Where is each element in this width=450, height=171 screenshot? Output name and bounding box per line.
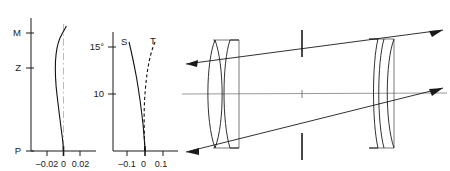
plot2-ylabel-10: 10 [93,88,104,99]
astigmatism-plot: 15° 10 –0.1 0 0.1 S T [90,32,178,169]
upper-ray-entry-arrowhead [186,60,198,67]
optical-figure: M Z P –0.02 0 0.02 15° 10 –0.1 0 [0,0,450,171]
optical-layout [182,30,447,160]
lower-ray-exit-arrowhead [429,88,443,96]
upper-ray-exit-arrowhead [429,30,443,37]
plot2-xlabel-pos: 0.1 [155,159,168,169]
plot2-label-S: S [121,36,127,47]
lower-ray-entry-arrowhead [186,148,199,155]
upper-ray-line [186,30,443,64]
plot1-xlabel-zero: 0 [61,159,66,169]
plot2-xlabel-zero: 0 [141,159,146,169]
plot2-xlabel-neg: –0.1 [118,159,136,169]
plot2-curve-T [144,42,155,151]
plot2-label-T: T [150,35,156,46]
plot1-ylabel-P: P [15,145,21,156]
upper-marginal-ray [186,30,443,67]
plot1-ylabel-M: M [13,27,21,38]
plot1-aberration-curve [55,26,66,151]
field-curvature-plot: M Z P –0.02 0 0.02 [13,18,96,169]
plot1-xlabel-neg: –0.02 [36,159,59,169]
plot2-ylabel-15: 15° [90,41,105,52]
lower-ray-line [186,88,443,152]
plot1-xlabel-pos: 0.02 [72,159,90,169]
plot1-ylabel-Z: Z [15,62,21,73]
lower-oblique-ray [186,88,443,155]
plot2-curve-S [129,42,145,151]
